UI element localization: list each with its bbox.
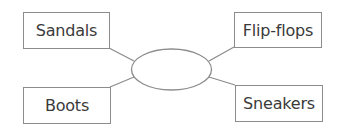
center-ellipse: [132, 49, 212, 90]
node-label: Sneakers: [243, 94, 315, 113]
node-sneakers: Sneakers: [235, 85, 323, 122]
node-label: Flip-flops: [243, 21, 313, 40]
node-sandals: Sandals: [23, 12, 110, 49]
node-flip-flops: Flip-flops: [234, 12, 322, 48]
node-label: Sandals: [36, 21, 97, 40]
node-label: Boots: [45, 96, 89, 115]
connector-sandals: [109, 48, 134, 61]
node-boots: Boots: [23, 87, 111, 124]
connector-boots: [110, 77, 134, 87]
connector-flip-flops: [209, 47, 234, 61]
spider-diagram: Sandals Flip-flops Boots Sneakers: [0, 0, 338, 130]
connector-sneakers: [209, 77, 235, 85]
